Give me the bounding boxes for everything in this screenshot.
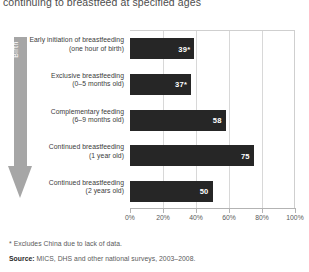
category-label-line2: (1 year old): [22, 152, 124, 161]
category-label-line1: Complementary feeding: [22, 108, 124, 117]
bar-value-label: 50: [200, 187, 209, 196]
chart-figure: continuing to breastfeed at specified ag…: [0, 0, 309, 272]
footnote-asterisk: * Excludes China due to lack of data.: [9, 239, 122, 248]
bar-value-label: 75: [241, 151, 250, 160]
x-axis-tick: [163, 209, 164, 213]
x-axis-tick: [130, 209, 131, 213]
category-label: Continued breastfeeding(2 years old): [22, 179, 124, 196]
category-label: Early initiation of breastfeeding(one ho…: [22, 36, 124, 53]
category-label-line1: Continued breastfeeding: [22, 143, 124, 152]
plot-area: 39*37*587550: [130, 30, 295, 208]
bar-value-label: 37*: [175, 80, 187, 89]
x-axis-tick-label: 40%: [179, 214, 213, 221]
category-label: Continued breastfeeding(1 year old): [22, 143, 124, 160]
category-label-line1: Early initiation of breastfeeding: [22, 36, 124, 45]
gridline: [262, 31, 263, 208]
category-label-line1: Continued breastfeeding: [22, 179, 124, 188]
bar: 37*: [130, 74, 191, 95]
x-axis-line: [130, 208, 296, 209]
figure-title: continuing to breastfeed at specified ag…: [3, 0, 303, 9]
category-label-line2: (2 years old): [22, 187, 124, 196]
source-label: Source:: [9, 255, 35, 262]
category-labels: Early initiation of breastfeeding(one ho…: [28, 28, 128, 208]
category-label-line2: (0–5 months old): [22, 80, 124, 89]
x-axis-tick-label: 20%: [146, 214, 180, 221]
category-label: Complementary feeding(6–9 months old): [22, 108, 124, 125]
bar: 39*: [130, 38, 194, 59]
x-axis-tick-label: 100%: [278, 214, 309, 221]
x-axis-tick: [262, 209, 263, 213]
chart-area: Early initiation of breastfeeding(one ho…: [0, 28, 309, 210]
bar-value-label: 58: [213, 116, 222, 125]
bar-value-label: 39*: [178, 44, 190, 53]
bar: 75: [130, 145, 254, 166]
category-label-line1: Exclusive breastfeeding: [22, 72, 124, 81]
x-axis-tick: [229, 209, 230, 213]
source-value: MICS, DHS and other national surveys, 20…: [35, 255, 196, 262]
x-axis-tick-label: 80%: [245, 214, 279, 221]
x-axis-tick-label: 0%: [113, 214, 147, 221]
x-axis-tick: [196, 209, 197, 213]
category-label-line2: (one hour of birth): [22, 45, 124, 54]
footnote-source: Source: MICS, DHS and other national sur…: [9, 254, 195, 263]
category-label-line2: (6–9 months old): [22, 116, 124, 125]
category-label: Exclusive breastfeeding(0–5 months old): [22, 72, 124, 89]
gridline: [229, 31, 230, 208]
x-axis-tick: [295, 209, 296, 213]
bar: 58: [130, 110, 226, 131]
x-axis-tick-label: 60%: [212, 214, 246, 221]
bar: 50: [130, 181, 213, 202]
